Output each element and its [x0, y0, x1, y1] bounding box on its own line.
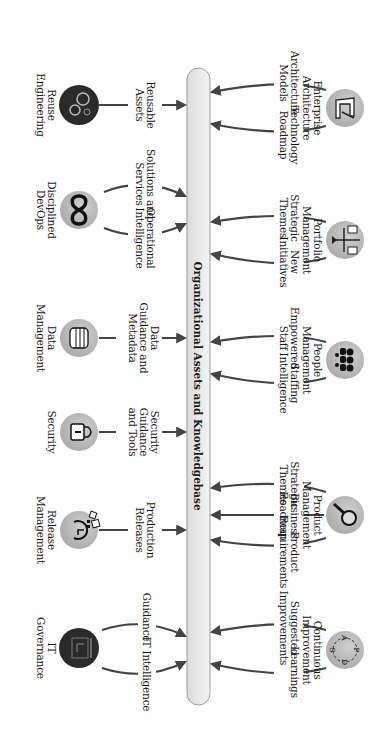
pdsa-letter-a: A	[340, 634, 349, 641]
node-people-management[interactable]: PeopleManagement	[301, 326, 323, 394]
pdsa-letter-s: S	[328, 647, 337, 652]
node-portfolio-management[interactable]: PortfolioManagement	[301, 206, 323, 274]
central-bar-label: Organizational Assets and Knowledgebase	[192, 261, 204, 510]
balance-scale-icon	[326, 221, 364, 259]
node-data-management[interactable]: DataManagement	[35, 304, 57, 372]
pdsa-cycle-icon: P D S A	[326, 631, 364, 669]
output-strategic-themes: StrategicThemes	[278, 194, 300, 241]
release-cycle-icon	[60, 511, 100, 549]
output-staffing-intelligence: StaffingIntelligence	[278, 353, 300, 414]
output-security-guidance-tools: SecurityGuidanceand Tools	[127, 408, 160, 457]
output-new-initiatives: NewInitiatives	[278, 236, 300, 287]
output-data-guidance-metadata: DataGuidance andMetadata	[127, 302, 160, 373]
node-it-governance[interactable]: ITGovernance	[35, 617, 57, 679]
output-it-intelligence: IT Intelligence	[141, 637, 152, 712]
output-technology-roadmap: TechnologyRoadmap	[278, 106, 300, 164]
padlock-icon	[60, 413, 98, 451]
pdsa-letter-p: P	[352, 647, 361, 653]
node-reuse-engineering[interactable]: ReuseEngineering	[35, 73, 57, 136]
output-product-requirements: ProductRequirements	[278, 516, 300, 588]
gears-icon	[59, 85, 99, 125]
node-continuous-improvement[interactable]: ContinuousImprovement	[301, 615, 323, 684]
diagram-canvas: P D S A	[0, 0, 384, 740]
node-disciplined-devops[interactable]: DisciplinedDevOps	[35, 181, 57, 238]
node-enterprise-architecture[interactable]: EnterpriseArchitecture	[301, 76, 323, 141]
magnifier-icon	[326, 496, 364, 534]
output-learnings: Learnings	[289, 646, 300, 698]
governance-board-icon	[59, 628, 99, 668]
people-group-icon	[326, 341, 364, 379]
pdsa-letter-d: D	[340, 659, 349, 665]
database-icon	[60, 319, 98, 357]
output-operational-intelligence: OperationalIntelligence	[134, 208, 156, 269]
architect-drawing-icon	[326, 89, 364, 127]
node-security[interactable]: Security	[46, 411, 57, 454]
output-reusable-assets: ReusableAssets	[134, 81, 156, 128]
output-production-releases: ProductionReleases	[134, 502, 156, 558]
infinity-loop-icon	[60, 191, 98, 229]
output-guidance: Guidance	[141, 593, 152, 642]
node-release-management[interactable]: ReleaseManagement	[35, 496, 57, 564]
node-product-management[interactable]: ProductManagement	[301, 481, 323, 549]
